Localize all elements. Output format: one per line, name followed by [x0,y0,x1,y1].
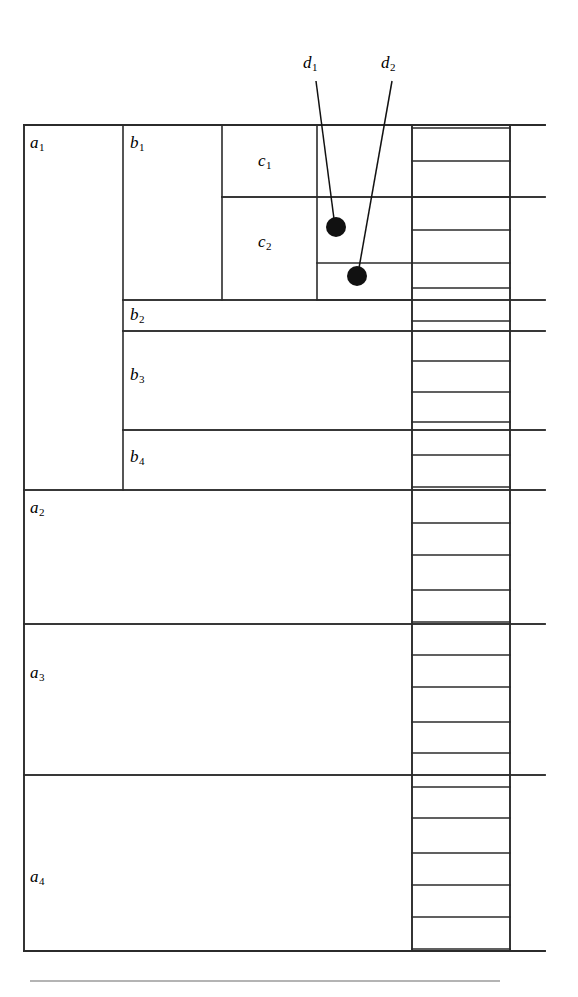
diagram-leader-lines [316,81,392,268]
label-b3: b3 [130,366,145,385]
point-d1 [326,217,346,237]
label-a2: a2 [30,499,45,518]
label-a4: a4 [30,868,45,887]
leader-line-d1 [316,81,334,219]
diagram-lines [24,125,545,951]
point-d2 [347,266,367,286]
label-d1: d1 [303,54,318,73]
label-b1: b1 [130,134,145,153]
label-c1: c1 [258,152,272,171]
leader-line-d2 [359,81,392,268]
label-c2: c2 [258,233,272,252]
figure-root: a1 a2 a3 a4 b1 b2 b3 b4 c1 c2 d1 d2 [0,0,578,997]
label-a1: a1 [30,134,45,153]
label-b4: b4 [130,448,145,467]
label-a3: a3 [30,664,45,683]
label-b2: b2 [130,306,145,325]
label-d2: d2 [381,54,396,73]
diagram-canvas [0,0,578,997]
diagram-points [326,217,367,286]
